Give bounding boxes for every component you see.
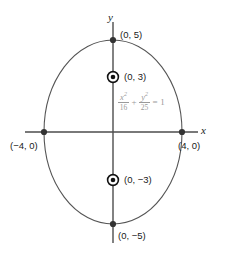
equals-sign: = bbox=[150, 98, 160, 107]
fraction-x-term: x2 16 bbox=[118, 93, 129, 111]
y-axis-label: y bbox=[108, 12, 113, 23]
label-point-4-0: (4, 0) bbox=[178, 141, 200, 151]
marker-vertex-bottom bbox=[110, 221, 116, 227]
label-point-0-3: (0, 3) bbox=[124, 72, 146, 82]
y-numerator: y2 bbox=[140, 93, 149, 102]
ellipse-diagram: y x (0, 5) (0, 3) (−4, 0) (4, 0) (0, −3)… bbox=[0, 0, 225, 254]
label-point-neg4-0: (−4, 0) bbox=[10, 141, 38, 151]
fraction-y-term: y2 25 bbox=[139, 93, 150, 111]
ellipse-equation: x2 16 + y2 25 = 1 bbox=[118, 93, 165, 111]
marker-covertex-left bbox=[41, 129, 47, 135]
y-denominator: 25 bbox=[140, 103, 150, 111]
label-point-0-5: (0, 5) bbox=[120, 30, 142, 40]
marker-focus-bottom bbox=[108, 175, 119, 186]
marker-vertex-top bbox=[110, 37, 116, 43]
x-axis-label: x bbox=[201, 125, 206, 136]
x-numerator: x2 bbox=[119, 93, 128, 102]
plus-sign: + bbox=[129, 98, 139, 107]
ellipse-graphic bbox=[0, 0, 225, 254]
marker-focus-top bbox=[108, 72, 119, 83]
label-point-0-neg3: (0, −3) bbox=[124, 175, 152, 185]
marker-covertex-right bbox=[179, 129, 185, 135]
x-denominator: 16 bbox=[119, 103, 129, 111]
equation-right-side: 1 bbox=[160, 98, 165, 107]
label-point-0-neg5: (0, −5) bbox=[118, 231, 146, 241]
